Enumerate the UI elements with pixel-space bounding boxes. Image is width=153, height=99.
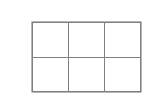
table-row[interactable] <box>33 57 141 92</box>
grid-body <box>33 23 141 92</box>
grid-cell-r1c3[interactable] <box>105 23 141 58</box>
screenshot-canvas <box>0 0 153 99</box>
empty-grid-table[interactable] <box>32 22 141 92</box>
grid-cell-r1c2[interactable] <box>69 23 105 58</box>
grid-cell-r2c2[interactable] <box>69 57 105 92</box>
grid-cell-r2c3[interactable] <box>105 57 141 92</box>
grid-cell-r2c1[interactable] <box>33 57 69 92</box>
table-row[interactable] <box>33 23 141 58</box>
grid-cell-r1c1[interactable] <box>33 23 69 58</box>
